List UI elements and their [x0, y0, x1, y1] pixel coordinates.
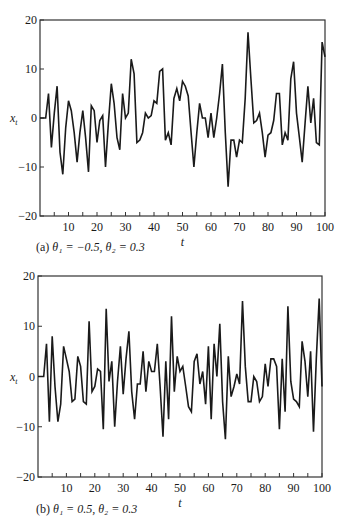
y-tick-label: −10: [16, 420, 35, 434]
x-tick-label: 90: [288, 481, 300, 495]
x-tick-label: 60: [202, 481, 214, 495]
x-tick-label: 100: [313, 481, 331, 495]
x-tick-label: 80: [262, 220, 274, 234]
x-tick-label: 50: [177, 220, 189, 234]
series-line: [38, 299, 322, 440]
x-axis-label: t: [178, 496, 182, 510]
plot-frame: [38, 276, 322, 477]
y-tick-label: 10: [23, 319, 35, 333]
x-tick-label: 20: [91, 220, 103, 234]
x-tick-label: 60: [205, 220, 217, 234]
x-axis-label: t: [181, 235, 185, 249]
x-tick-label: 80: [259, 481, 271, 495]
x-tick-label: 100: [316, 220, 334, 234]
plot-frame: [40, 20, 325, 216]
x-tick-label: 10: [60, 481, 72, 495]
caption-b-body: θ₁ = 0.5, θ₂ = 0.3: [53, 502, 137, 516]
y-tick-label: −10: [18, 160, 37, 174]
y-tick-label: −20: [18, 209, 37, 223]
y-tick-label: 0: [31, 111, 37, 125]
y-axis-label: xt: [9, 111, 18, 127]
x-tick-label: 40: [146, 481, 158, 495]
y-tick-label: 10: [25, 62, 37, 76]
y-tick-label: 20: [25, 13, 37, 27]
x-tick-label: 30: [117, 481, 129, 495]
y-tick-label: −20: [16, 470, 35, 484]
line-chart-a: −20−1001020102030405060708090100txt: [0, 0, 344, 265]
chart-panel-b: −20−1001020102030405060708090100txt (b) …: [0, 265, 344, 530]
x-tick-label: 30: [120, 220, 132, 234]
line-chart-b: −20−1001020102030405060708090100txt: [0, 265, 344, 530]
x-tick-label: 70: [231, 481, 243, 495]
series-line: [40, 32, 325, 186]
y-tick-label: 20: [23, 269, 35, 283]
chart-panel-a: −20−1001020102030405060708090100txt (a) …: [0, 0, 344, 265]
x-tick-label: 70: [234, 220, 246, 234]
y-tick-label: 0: [29, 370, 35, 384]
caption-a-body: θ₁ = −0.5, θ₂ = 0.3: [52, 240, 144, 254]
x-tick-label: 10: [63, 220, 75, 234]
caption-b: (b) θ₁ = 0.5, θ₂ = 0.3: [36, 502, 137, 517]
caption-b-prefix: (b): [36, 502, 53, 516]
y-axis-label: xt: [9, 370, 18, 386]
caption-a-prefix: (a): [36, 240, 52, 254]
x-tick-label: 90: [291, 220, 303, 234]
x-tick-label: 50: [174, 481, 186, 495]
caption-a: (a) θ₁ = −0.5, θ₂ = 0.3: [36, 240, 145, 255]
x-tick-label: 20: [89, 481, 101, 495]
x-tick-label: 40: [148, 220, 160, 234]
